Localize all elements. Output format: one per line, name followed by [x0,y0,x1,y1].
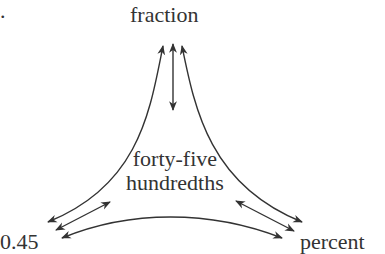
diagram-arrows [0,0,385,254]
node-percent: percent [300,231,365,253]
words-line-1: forty-five [126,147,224,171]
node-fraction: fraction [130,4,198,26]
node-words: forty-five hundredths [126,147,224,195]
words-line-2: hundredths [126,171,224,195]
arrow-decimal-percent [62,217,282,238]
item-marker: . [0,0,6,22]
arrow-fraction-decimal [48,46,163,222]
arrow-fraction-percent [182,46,302,222]
node-decimal: 0.45 [0,231,39,253]
arrow-decimal-words [56,202,110,230]
